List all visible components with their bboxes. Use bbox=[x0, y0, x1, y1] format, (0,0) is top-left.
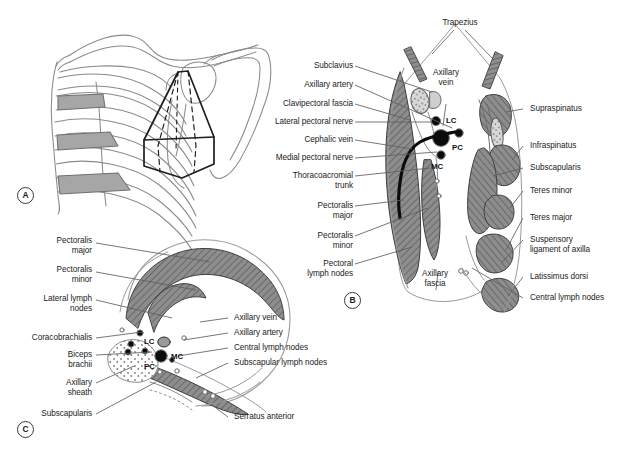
label-axillary-vein-b: Axillary vein bbox=[420, 68, 472, 88]
lymph-node-c3 bbox=[142, 348, 148, 354]
label-teres-major: Teres major bbox=[530, 213, 622, 223]
panel-b-marker: B bbox=[344, 292, 361, 309]
label-axillary-artery-c: Axillary artery bbox=[234, 328, 374, 338]
label-coracobrachialis: Coracobrachialis bbox=[0, 333, 92, 343]
label-central-lymph-nodes-b: Central lymph nodes bbox=[530, 293, 622, 303]
label-supraspinatus: Supraspinatus bbox=[530, 104, 622, 114]
label-subscapularis-c: Subscapularis bbox=[0, 409, 92, 419]
label-cephalic-vein: Cephalic vein bbox=[255, 135, 353, 145]
label-lateral-cord-c: LC bbox=[144, 337, 154, 346]
label-lateral-cord-b: LC bbox=[446, 116, 456, 125]
axillary-artery-lumen-c bbox=[158, 337, 170, 347]
label-posterior-cord-c: PC bbox=[144, 362, 155, 371]
label-subscapularis-b: Subscapularis bbox=[530, 163, 622, 173]
label-latissimus-dorsi: Latissimus dorsi bbox=[530, 272, 622, 282]
label-pectoralis-major-c: Pectoralis major bbox=[0, 236, 92, 256]
lateral-cord-node-c bbox=[137, 330, 143, 336]
lymph-node-c2 bbox=[125, 349, 131, 355]
label-pectoralis-major-b: Pectoralis major bbox=[255, 201, 353, 221]
label-medial-cord-c: MC bbox=[171, 352, 183, 361]
clavicle-cross-section bbox=[409, 87, 432, 115]
label-thoracoacromial-trunk: Thoracoacromial trunk bbox=[255, 171, 353, 191]
label-pectoralis-minor-b: Pectoralis minor bbox=[255, 231, 353, 251]
label-lateral-lymph-nodes: Lateral lymph nodes bbox=[0, 294, 92, 314]
panel-c-marker: C bbox=[17, 421, 34, 438]
figure-root: A B C Trapezius Axillary vein LC PC MC A… bbox=[0, 0, 622, 456]
medial-cord-node bbox=[437, 151, 445, 159]
label-central-lymph-nodes-c: Central lymph nodes bbox=[234, 343, 374, 353]
panel-a-illustration bbox=[51, 35, 271, 250]
label-clavipectoral-fascia: Clavipectoral fascia bbox=[245, 99, 353, 109]
label-trapezius: Trapezius bbox=[418, 18, 502, 28]
label-subclavius: Subclavius bbox=[255, 61, 353, 71]
axillary-vein-lumen-c bbox=[155, 350, 167, 362]
latissimus-dorsi bbox=[482, 278, 519, 312]
label-medial-pectoral-nerve: Medial pectoral nerve bbox=[233, 153, 353, 163]
panel-a-marker: A bbox=[17, 187, 34, 204]
label-teres-minor: Teres minor bbox=[530, 186, 622, 196]
label-posterior-cord-b: PC bbox=[452, 143, 463, 152]
label-pectoral-lymph-nodes: Pectoral lymph nodes bbox=[255, 259, 353, 279]
label-biceps-brachii: Biceps brachii bbox=[0, 350, 92, 370]
label-axillary-fascia-b: Axillary fascia bbox=[404, 269, 466, 289]
teres-minor bbox=[484, 195, 514, 229]
label-axillary-artery-b: Axillary artery bbox=[255, 80, 353, 90]
label-infraspinatus: Infraspinatus bbox=[530, 141, 622, 151]
label-lateral-pectoral-nerve: Lateral pectoral nerve bbox=[235, 117, 353, 127]
label-pectoralis-minor-c: Pectoralis minor bbox=[0, 265, 92, 285]
label-subscapular-lymph-nodes: Subscapular lymph nodes bbox=[234, 358, 394, 368]
label-axillary-sheath: Axillary sheath bbox=[0, 378, 92, 398]
lymph-node-c1 bbox=[128, 341, 134, 347]
teres-major bbox=[476, 234, 513, 273]
label-medial-cord-b: MC bbox=[431, 162, 443, 171]
label-axillary-vein-c: Axillary vein bbox=[234, 313, 374, 323]
label-serratus-anterior: Serratus anterior bbox=[234, 412, 374, 422]
label-suspensory-ligament: Suspensory ligament of axilla bbox=[530, 235, 622, 255]
